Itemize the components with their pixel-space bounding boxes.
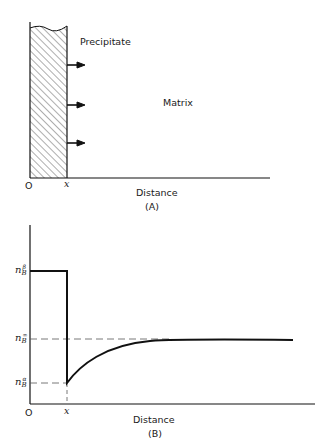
precipitate-region — [30, 26, 67, 178]
matrix-label: Matrix — [163, 97, 193, 108]
origin-label-a: O — [25, 180, 32, 191]
interface-label-a: x — [64, 178, 69, 189]
n-inf-label: nB∞ — [15, 332, 28, 345]
n-beta-label: nBβ — [15, 264, 26, 277]
caption-a: (A) — [145, 201, 159, 212]
x-axis-label-a: Distance — [136, 187, 178, 198]
interface-label-b: x — [64, 405, 69, 416]
growth-arrows — [67, 62, 85, 146]
diagram-canvas — [0, 0, 330, 445]
panel-a — [30, 22, 270, 178]
panel-b — [30, 225, 315, 404]
x-axis-label-b: Distance — [133, 414, 175, 425]
caption-b: (B) — [148, 428, 162, 439]
concentration-profile — [30, 271, 293, 383]
n-alpha-label: nBα — [15, 376, 27, 389]
precipitate-label: Precipitate — [80, 36, 131, 47]
origin-label-b: O — [25, 407, 32, 418]
